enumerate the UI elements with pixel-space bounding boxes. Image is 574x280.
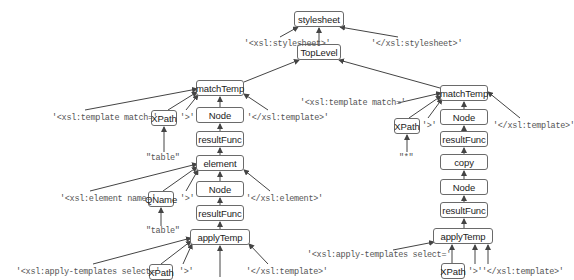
literal-right-gt-1: '>' bbox=[422, 121, 436, 131]
literal-left-gt-2: '>' bbox=[180, 194, 194, 204]
node-right-node-1: Node bbox=[440, 109, 488, 125]
node-right-copy: copy bbox=[440, 154, 488, 170]
node-left-resultfunc-1: resultFunc bbox=[196, 131, 244, 147]
literal-right-apply-open: '<xsl:apply-templates select=' bbox=[307, 250, 451, 260]
node-right-node-2: Node bbox=[440, 179, 488, 195]
literal-right-template-close: '</xsl:template>' bbox=[493, 121, 574, 131]
node-left-node-2: Node bbox=[196, 181, 244, 197]
literal-right-star: "*" bbox=[399, 153, 413, 163]
node-left-applytemp: applyTemp bbox=[190, 229, 250, 245]
literal-left-element-close: '</xsl:element>' bbox=[246, 194, 323, 204]
literal-left-table-1: "table" bbox=[146, 153, 180, 163]
node-left-element: element bbox=[196, 155, 244, 171]
node-right-resultfunc-2: resultFunc bbox=[440, 202, 488, 218]
node-right-resultfunc-1: resultFunc bbox=[440, 131, 488, 147]
node-left-node-1: Node bbox=[196, 107, 244, 123]
node-right-xpath: XPath bbox=[394, 118, 420, 134]
node-stylesheet: stylesheet bbox=[294, 11, 344, 27]
literal-left-table-2: "table" bbox=[146, 226, 180, 236]
literal-left-element-open: '<xsl:element name=' bbox=[60, 194, 156, 204]
node-right-xpath-2: XPath bbox=[441, 263, 465, 279]
literal-right-template-open: '<xsl:template match=' bbox=[300, 98, 406, 108]
literal-stylesheet-close: '</xsl:stylesheet>' bbox=[371, 39, 462, 49]
node-right-applytemp: applyTemp bbox=[433, 228, 493, 244]
literal-left-template-open: '<xsl:template match=' bbox=[52, 113, 158, 123]
literal-right-gt-2: '>' bbox=[468, 267, 482, 277]
literal-right-template-close-2: '</xsl:template>' bbox=[482, 267, 564, 277]
literal-left-apply-open: '<xsl:apply-templates select=' bbox=[16, 267, 160, 277]
literal-stylesheet-open: '<xsl:stylesheet>' bbox=[244, 39, 330, 49]
node-left-matchtemp: matchTemp bbox=[196, 80, 244, 96]
literal-left-gt-1: '>' bbox=[180, 113, 194, 123]
literal-left-template-close: '</xsl:template>' bbox=[247, 113, 329, 123]
node-left-resultfunc-2: resultFunc bbox=[196, 205, 244, 221]
literal-left-gt-3: '>' bbox=[179, 267, 193, 277]
node-right-matchtemp: matchTemp bbox=[440, 85, 488, 101]
literal-left-template-close-2: '</xsl:template>' bbox=[246, 267, 328, 277]
